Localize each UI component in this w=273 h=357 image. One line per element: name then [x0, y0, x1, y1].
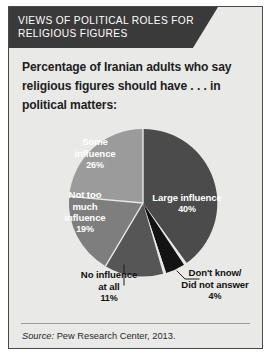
pie-label-no-influence-line2: at all — [98, 281, 119, 292]
pie-label-some-influence-line1: Some — [82, 136, 108, 147]
page-title: Views of political roles for religious f… — [18, 14, 198, 40]
pie-label-not-too-much: Not too much influence 19% — [51, 189, 119, 236]
footer-divider — [21, 323, 250, 324]
pie-label-not-too-much-line1: Not too — [69, 189, 102, 200]
infographic-card: Views of political roles for religious f… — [8, 6, 263, 349]
pie-label-no-influence: No influence at all 11% — [63, 269, 155, 305]
pie-label-large-influence-value: 40% — [135, 204, 239, 216]
source-note: Source: Pew Research Center, 2013. — [22, 330, 252, 342]
source-value: Pew Research Center, 2013. — [57, 331, 176, 341]
source-label: Source: — [22, 331, 54, 341]
pie-label-not-too-much-line3: influence — [64, 212, 105, 223]
pie-label-not-too-much-line2: much — [72, 201, 97, 212]
pie-label-no-influence-line1: No influence — [81, 269, 137, 280]
pie-label-dont-know-line2: Did not answer — [181, 279, 248, 290]
pie-label-large-influence: Large influence 40% — [135, 192, 239, 216]
pie-label-some-influence-line2: influence — [74, 148, 115, 159]
pie-label-dont-know-value: 4% — [169, 291, 261, 303]
pie-label-some-influence-value: 26% — [57, 160, 133, 172]
pie-label-dont-know: Don't know/ Did not answer 4% — [169, 267, 261, 303]
pie-label-large-influence-text: Large influence — [152, 192, 221, 203]
pie-label-dont-know-line1: Don't know/ — [189, 267, 242, 278]
pie-label-some-influence: Some influence 26% — [57, 136, 133, 171]
pie-chart: Large influence 40% Some influence 26% N… — [9, 99, 262, 315]
pie-label-no-influence-value: 11% — [63, 293, 155, 305]
pie-label-not-too-much-value: 19% — [51, 224, 119, 236]
